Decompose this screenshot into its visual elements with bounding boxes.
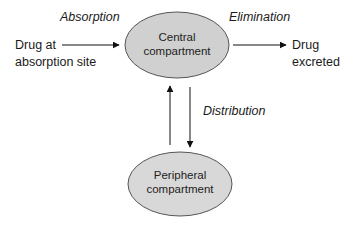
central-compartment-label: Central compartment bbox=[127, 30, 227, 58]
elimination-label: Elimination bbox=[229, 10, 290, 25]
absorption-label: Absorption bbox=[60, 10, 120, 25]
sink-line1: Drug bbox=[292, 38, 319, 53]
central-line1: Central bbox=[127, 30, 227, 44]
peripheral-compartment-label: Peripheral compartment bbox=[130, 168, 230, 196]
sink-line2: excreted bbox=[292, 55, 340, 70]
peripheral-line1: Peripheral bbox=[130, 168, 230, 182]
distribution-label: Distribution bbox=[203, 104, 266, 119]
peripheral-line2: compartment bbox=[130, 182, 230, 196]
central-line2: compartment bbox=[127, 44, 227, 58]
source-line1: Drug at bbox=[15, 38, 56, 53]
source-line2: absorption site bbox=[15, 55, 96, 70]
